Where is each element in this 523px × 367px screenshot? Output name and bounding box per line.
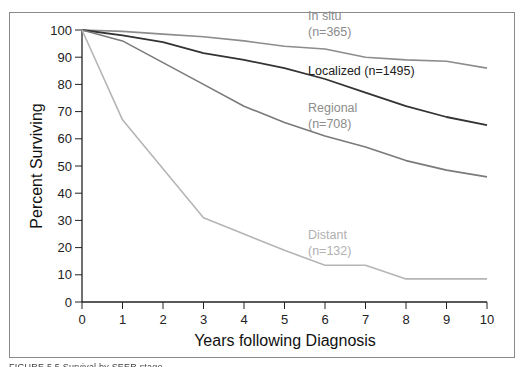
y-tick-label: 10 (58, 267, 72, 282)
survival-chart: 0102030405060708090100 012345678910 In s… (0, 0, 523, 367)
series-line-regional (82, 30, 487, 177)
y-tick-label: 40 (58, 186, 72, 201)
label-distant-n: (n=132) (308, 244, 351, 258)
y-tick-label: 60 (58, 131, 72, 146)
x-tick-label: 0 (78, 312, 85, 327)
y-tick-label: 100 (50, 23, 72, 38)
y-tick-label: 20 (58, 240, 72, 255)
x-tick-label: 1 (119, 312, 126, 327)
label-regional-n: (n=708) (308, 117, 351, 131)
x-tick-label: 8 (402, 312, 409, 327)
y-axis-title: Percent Surviving (28, 103, 45, 228)
x-tick-label: 2 (159, 312, 166, 327)
x-tick-label: 6 (321, 312, 328, 327)
series-line-in-situ (82, 30, 487, 68)
y-tick-label: 30 (58, 213, 72, 228)
x-tick-label: 3 (200, 312, 207, 327)
x-tick-label: 9 (443, 312, 450, 327)
x-tick-label: 5 (281, 312, 288, 327)
label-distant: Distant (308, 228, 347, 242)
label-insitu-n: (n=365) (308, 25, 351, 39)
series-lines (82, 30, 487, 279)
y-tick-label: 50 (58, 159, 72, 174)
y-tick-label: 70 (58, 104, 72, 119)
y-tick-label: 90 (58, 50, 72, 65)
y-tick-label: 0 (65, 295, 72, 310)
x-tick-label: 4 (240, 312, 247, 327)
series-line-localized (82, 30, 487, 125)
y-tick-label: 80 (58, 77, 72, 92)
x-axis: 012345678910 (78, 302, 494, 327)
label-localized: Localized (n=1495) (308, 64, 415, 78)
x-axis-title: Years following Diagnosis (194, 332, 376, 349)
x-tick-label: 10 (480, 312, 494, 327)
label-insitu: In situ (308, 9, 341, 23)
figure-caption: FIGURE 5.5 Survival by SEER stage... (9, 361, 171, 367)
y-axis: 0102030405060708090100 (50, 23, 82, 310)
x-tick-label: 7 (362, 312, 369, 327)
label-regional: Regional (308, 101, 357, 115)
